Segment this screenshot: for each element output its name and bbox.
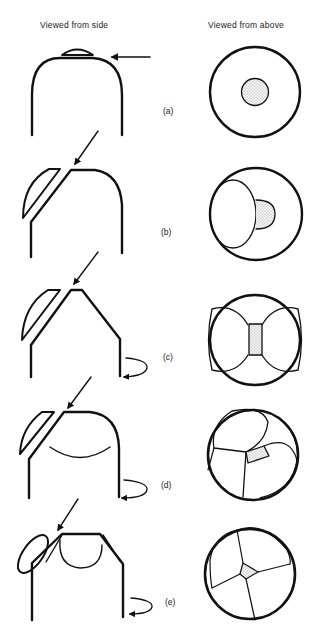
side-view-a <box>32 50 150 136</box>
side-view-d <box>20 377 147 498</box>
top-view-b <box>210 168 302 260</box>
top-view-a <box>210 47 300 137</box>
top-view-d <box>208 409 298 500</box>
side-view-e <box>12 499 152 620</box>
side-view-b <box>23 131 122 257</box>
embryo-cleavage-diagram <box>0 0 315 644</box>
side-view-c <box>22 252 147 377</box>
top-view-c <box>209 295 302 385</box>
top-view-e <box>205 528 295 621</box>
